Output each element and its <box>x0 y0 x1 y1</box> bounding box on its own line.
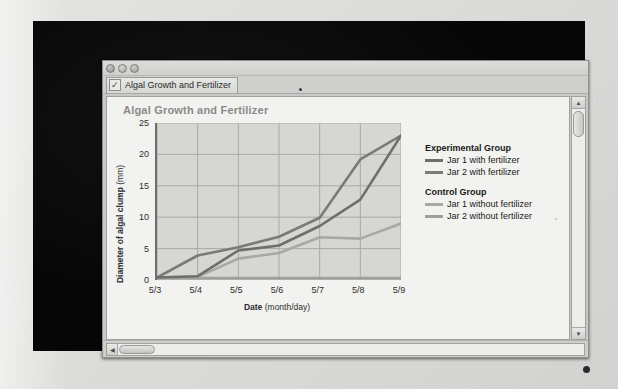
legend-item: Jar 2 without fertilizer <box>425 211 570 221</box>
document-area: Algal Growth and Fertilizer Diameter of … <box>103 94 588 340</box>
y-tick-label: 10 <box>127 212 149 222</box>
x-axis-unit: (month/day) <box>265 302 310 312</box>
tab-label: Algal Growth and Fertilizer <box>125 80 231 90</box>
y-axis-title-text: Diameter of algal clump <box>115 187 125 283</box>
horizontal-scroll-track[interactable] <box>118 344 584 355</box>
chart-canvas: Diameter of algal clump (mm) 0510152025 … <box>107 119 569 339</box>
horizontal-scrollbar[interactable]: ◀ <box>106 343 585 356</box>
y-tick-label: 25 <box>127 118 149 128</box>
document-page: Algal Growth and Fertilizer Diameter of … <box>106 96 570 340</box>
x-tick-label: 5/4 <box>189 285 202 295</box>
chart-title: Algal Growth and Fertilizer <box>123 104 268 116</box>
y-tick-label: 5 <box>127 244 149 254</box>
y-tick-label: 15 <box>127 181 149 191</box>
x-tick-label: 5/9 <box>393 285 406 295</box>
x-tick-label: 5/7 <box>311 285 324 295</box>
vertical-scrollbar[interactable]: ▲ ▼ <box>571 96 586 340</box>
x-tick-label: 5/8 <box>352 285 365 295</box>
legend-group: Control GroupJar 1 without fertilizerJar… <box>425 187 570 221</box>
maximize-button[interactable] <box>130 64 139 73</box>
chart-legend: Experimental GroupJar 1 with fertilizerJ… <box>425 143 570 231</box>
monitor-power-led <box>583 366 590 373</box>
window-titlebar[interactable] <box>103 61 588 76</box>
x-tick-label: 5/6 <box>271 285 284 295</box>
x-axis-title: Date (month/day) <box>155 302 399 312</box>
y-tick-label: 0 <box>127 275 149 285</box>
minimize-button[interactable] <box>118 64 127 73</box>
legend-swatch <box>425 171 443 174</box>
window-bottom-bar: ◀ <box>103 340 588 357</box>
legend-group: Experimental GroupJar 1 with fertilizerJ… <box>425 143 570 177</box>
legend-swatch <box>425 159 443 162</box>
checkmark-icon: ✓ <box>109 79 121 91</box>
y-axis-unit: (mm) <box>115 165 125 185</box>
application-window: ✓ Algal Growth and Fertilizer Algal Grow… <box>102 60 589 358</box>
screen-speck <box>299 88 302 91</box>
legend-label: Jar 1 without fertilizer <box>447 199 532 209</box>
scroll-up-button[interactable]: ▲ <box>572 97 585 109</box>
bezel-speck <box>555 218 557 220</box>
x-tick-label: 5/3 <box>149 285 162 295</box>
tab-algal-growth-and-fertilizer[interactable]: ✓ Algal Growth and Fertilizer <box>106 77 238 93</box>
horizontal-scroll-thumb[interactable] <box>119 345 155 354</box>
legend-group-heading: Experimental Group <box>425 143 570 153</box>
monitor-screen: ✓ Algal Growth and Fertilizer Algal Grow… <box>33 21 585 351</box>
y-tick-label: 20 <box>127 149 149 159</box>
tab-bar: ✓ Algal Growth and Fertilizer <box>103 76 588 94</box>
legend-swatch <box>425 203 443 206</box>
legend-label: Jar 2 without fertilizer <box>447 211 532 221</box>
legend-label: Jar 2 with fertilizer <box>447 167 520 177</box>
legend-group-heading: Control Group <box>425 187 570 197</box>
line-chart-svg <box>157 123 401 280</box>
bezel-speck-2 <box>596 100 598 102</box>
x-axis-ticks: 5/35/45/55/65/75/85/9 <box>155 285 399 299</box>
close-button[interactable] <box>106 64 115 73</box>
legend-swatch <box>425 215 443 218</box>
legend-item: Jar 1 with fertilizer <box>425 155 570 165</box>
scroll-left-button[interactable]: ◀ <box>107 344 118 355</box>
vertical-scroll-track[interactable] <box>572 109 585 327</box>
photo-background: ✓ Algal Growth and Fertilizer Algal Grow… <box>0 0 618 389</box>
x-axis-title-text: Date <box>244 302 262 312</box>
scroll-down-button[interactable]: ▼ <box>572 327 585 339</box>
y-axis-ticks: 0510152025 <box>127 119 149 339</box>
y-axis-title: Diameter of algal clump (mm) <box>113 149 127 299</box>
x-tick-label: 5/5 <box>230 285 243 295</box>
legend-label: Jar 1 with fertilizer <box>447 155 520 165</box>
legend-item: Jar 2 with fertilizer <box>425 167 570 177</box>
plot-area <box>155 123 401 280</box>
legend-item: Jar 1 without fertilizer <box>425 199 570 209</box>
vertical-scroll-thumb[interactable] <box>573 111 584 137</box>
